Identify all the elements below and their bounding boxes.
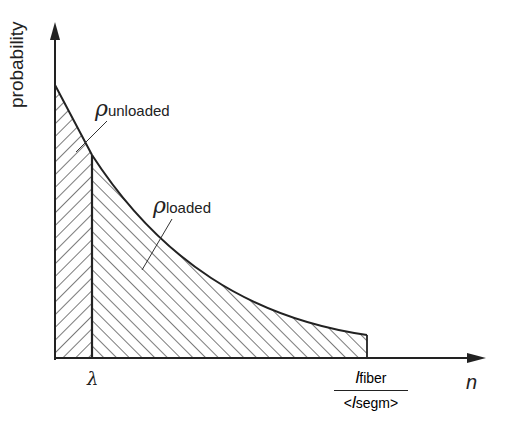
fraction-denominator: <lsegm> (334, 391, 408, 413)
rho-loaded-label: ρloaded (153, 193, 211, 218)
y-axis-arrow-icon (50, 22, 60, 40)
x-axis-arrow-icon (467, 353, 486, 363)
rho-subscript: unloaded (108, 102, 170, 119)
rho-symbol: ρ (95, 96, 108, 121)
lambda-label: λ (87, 368, 98, 389)
fraction-numerator: lfiber (334, 368, 408, 391)
y-axis-label: probability (6, 21, 28, 108)
rho-subscript: loaded (166, 199, 211, 216)
rho-symbol: ρ (153, 193, 166, 218)
unloaded-region (55, 85, 92, 358)
rho-unloaded-label: ρunloaded (95, 96, 170, 121)
probability-diagram (0, 0, 512, 437)
fiber-segment-fraction: lfiber <lsegm> (334, 368, 408, 413)
x-axis-label: n (466, 371, 477, 394)
